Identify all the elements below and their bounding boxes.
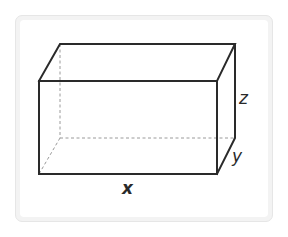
label-height-z: z (238, 88, 249, 108)
top-face-edges (39, 44, 235, 81)
label-length-x: x (121, 178, 134, 198)
rectangular-prism-diagram: z y x (0, 0, 288, 237)
front-face (39, 81, 217, 174)
hidden-edge-bottom-left-depth (39, 138, 60, 174)
hidden-edges (39, 44, 235, 174)
label-depth-y: y (231, 146, 243, 166)
visible-edges (39, 44, 235, 174)
